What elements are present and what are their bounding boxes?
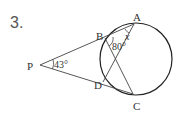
point-b-label: B — [96, 30, 103, 42]
point-c-label: C — [133, 100, 140, 112]
point-d-label: D — [94, 79, 102, 91]
geometry-diagram: A B D C P 43° 80° x — [0, 0, 180, 120]
angle-b-label: 80° — [112, 41, 126, 52]
point-p-label: P — [27, 60, 33, 72]
angle-p-label: 43° — [54, 59, 68, 70]
point-a-label: A — [133, 11, 141, 23]
angle-a-label: x — [124, 31, 130, 42]
